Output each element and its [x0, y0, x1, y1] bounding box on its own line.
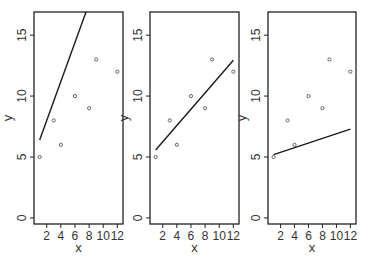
y-axis-label: y [0, 114, 15, 121]
y-tick-label: 15 [249, 28, 263, 42]
data-point [116, 70, 119, 73]
x-tick-label: 8 [202, 229, 209, 243]
x-tick-label: 12 [111, 229, 125, 243]
y-tick-label: 10 [249, 89, 263, 103]
data-point [307, 94, 310, 97]
x-tick-label: 8 [319, 229, 326, 243]
data-point [272, 155, 275, 158]
data-point [175, 143, 178, 146]
x-tick-label: 12 [227, 229, 241, 243]
panels-group: 24681012051015xy24681012051015xy24681012… [0, 0, 357, 255]
x-tick-label: 12 [344, 229, 358, 243]
panel-2: 24681012051015xy [116, 12, 240, 255]
fit-line [156, 60, 234, 150]
x-tick-label: 2 [277, 229, 284, 243]
x-tick-label: 2 [43, 229, 50, 243]
data-point [73, 94, 76, 97]
y-tick-label: 10 [15, 89, 29, 103]
y-axis-label: y [234, 114, 249, 121]
data-point [154, 155, 157, 158]
x-axis-label: x [191, 240, 198, 255]
y-tick-label: 5 [15, 153, 29, 160]
data-point [328, 58, 331, 61]
data-point [95, 58, 98, 61]
data-point [52, 119, 55, 122]
data-point [87, 107, 90, 110]
y-tick-label: 15 [15, 28, 29, 42]
x-tick-label: 10 [330, 229, 344, 243]
data-point [168, 119, 171, 122]
fit-line [40, 0, 118, 140]
x-tick-label: 4 [173, 229, 180, 243]
panel-3: 24681012051015xy [234, 12, 357, 255]
data-point [211, 58, 214, 61]
plot-frame [268, 12, 356, 224]
fit-line [274, 129, 351, 154]
y-tick-label: 15 [131, 28, 145, 42]
y-tick-label: 0 [249, 214, 263, 221]
y-tick-label: 0 [131, 214, 145, 221]
x-tick-label: 4 [57, 229, 64, 243]
x-tick-label: 8 [86, 229, 93, 243]
y-tick-label: 10 [131, 89, 145, 103]
data-point [293, 143, 296, 146]
data-point [349, 70, 352, 73]
y-axis-label: y [116, 114, 131, 121]
x-tick-label: 2 [159, 229, 166, 243]
data-point [203, 107, 206, 110]
data-point [286, 119, 289, 122]
data-point [59, 143, 62, 146]
y-tick-label: 5 [131, 153, 145, 160]
x-axis-label: x [75, 240, 82, 255]
panel-1: 24681012051015xy [0, 0, 124, 255]
x-axis-label: x [309, 240, 316, 255]
x-tick-label: 10 [213, 229, 227, 243]
x-tick-label: 10 [97, 229, 111, 243]
data-point [189, 94, 192, 97]
y-tick-label: 5 [249, 153, 263, 160]
x-tick-label: 4 [291, 229, 298, 243]
scatter-figure: 24681012051015xy24681012051015xy24681012… [0, 0, 372, 259]
y-tick-label: 0 [15, 214, 29, 221]
data-point [232, 70, 235, 73]
data-point [38, 155, 41, 158]
data-point [321, 107, 324, 110]
plot-frame [150, 12, 239, 224]
